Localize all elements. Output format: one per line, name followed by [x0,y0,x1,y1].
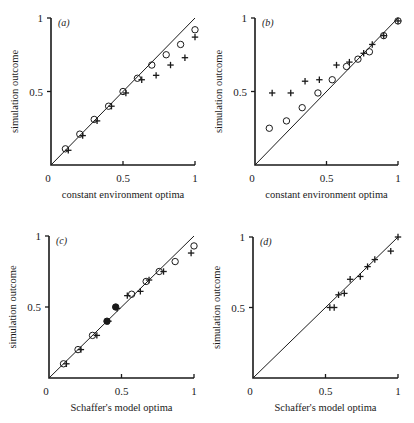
cross-marker [316,77,322,83]
tick-label: 1 [242,12,248,24]
y-axis-label: simulation outcome [9,50,20,133]
circle-marker [177,41,183,47]
circle-marker [299,104,305,110]
cross-marker [182,54,188,60]
tick-label: 0 [43,385,49,397]
cross-marker [63,361,69,367]
tick-label: 1 [191,385,197,397]
reference-line [49,236,194,378]
tick-label: 1 [192,172,198,184]
panel-c: 10.500.51Schaffer's model optimasimulati… [7,230,197,413]
tick-label: 0 [249,172,255,184]
cross-marker [346,59,352,65]
cross-marker [288,90,294,96]
circle-marker [163,52,169,58]
x-axis-label: Schaffer's model optima [274,402,376,413]
tick-label: 1 [240,231,246,243]
tick-label: 0.5 [115,385,129,397]
tick-label: 0.5 [319,385,333,397]
circle-marker [329,77,335,83]
reference-line [255,18,398,165]
tick-label: 0.5 [231,302,245,314]
cross-marker [78,346,84,352]
circle-marker [266,125,272,131]
cross-marker [108,103,114,109]
tick-label: 1 [395,172,401,184]
cross-marker [331,304,337,310]
cross-marker [94,118,100,124]
tick-label: 0.5 [116,172,130,184]
circle-marker [315,90,321,96]
y-axis-label: simulation outcome [213,50,224,133]
cross-marker [188,250,194,256]
tick-label: 0.5 [233,86,247,98]
panel-b: 10.500.51constant environment optimasimu… [213,12,401,200]
panel-d: 10.500.51Schaffer's model optimasimulati… [211,231,401,413]
x-axis-label: constant environment optima [265,189,388,200]
circle-marker [143,278,149,284]
cross-marker [79,132,85,138]
panel-label: (b) [262,17,274,29]
cross-marker [139,77,145,83]
circle-marker [191,243,197,249]
tick-label: 0.5 [320,172,334,184]
cross-marker [137,288,143,294]
panel-label: (d) [260,236,272,248]
tick-label: 1 [36,230,42,242]
tick-label: 0 [247,385,253,397]
panel-label: (c) [56,235,68,247]
tick-label: 1 [395,385,401,397]
y-axis-label: simulation outcome [211,266,222,349]
circle-marker [283,118,289,124]
panel-a: 10.500.51constant environment optimasimu… [9,12,198,200]
cross-marker [388,248,394,254]
cross-marker [167,62,173,68]
tick-label: 0 [45,172,51,184]
cross-marker [302,78,308,84]
circle-marker [192,27,198,33]
cross-marker [192,34,198,40]
x-axis-label: constant environment optima [62,189,185,200]
cross-marker [357,273,363,279]
circle-marker [172,258,178,264]
tick-label: 0.5 [29,86,43,98]
cross-marker [269,90,275,96]
cross-marker [333,62,339,68]
figure: 10.500.51constant environment optimasimu… [0,0,414,423]
cross-marker [124,292,130,298]
reference-line [51,18,195,165]
cross-marker [153,72,159,78]
panel-label: (a) [58,17,70,29]
cross-marker [65,147,71,153]
y-axis-label: simulation outcome [7,265,18,348]
tick-label: 1 [38,12,44,24]
reference-line [253,237,398,378]
circle-marker [134,75,140,81]
circle-marker [366,49,372,55]
x-axis-label: Schaffer's model optima [70,402,172,413]
circle-marker [113,304,119,310]
tick-label: 0.5 [27,301,41,313]
